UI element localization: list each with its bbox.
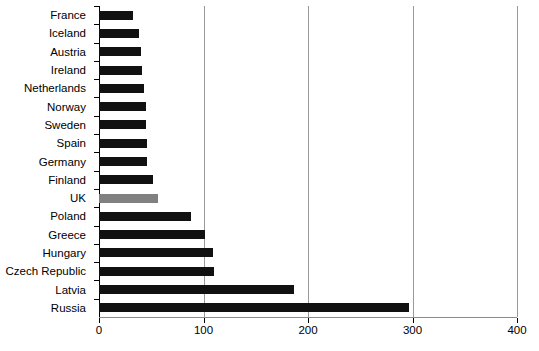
y-axis-tick xyxy=(94,97,99,98)
y-axis-label: Czech Republic xyxy=(5,262,86,280)
y-axis-labels: FranceIcelandAustriaIrelandNetherlandsNo… xyxy=(0,6,92,317)
y-axis-label: Poland xyxy=(50,207,86,225)
x-axis-tick-label: 200 xyxy=(298,324,317,336)
bar xyxy=(99,267,214,276)
y-axis-label: Russia xyxy=(51,299,86,317)
x-axis-labels: 0100200300400 xyxy=(99,318,517,338)
gridline-300 xyxy=(413,6,414,317)
y-axis-label: Iceland xyxy=(49,24,86,42)
y-axis-label: Spain xyxy=(57,134,86,152)
x-axis-tick xyxy=(517,318,518,323)
y-axis-label: UK xyxy=(70,189,86,207)
bar xyxy=(99,285,294,294)
y-axis-tick xyxy=(94,280,99,281)
bar xyxy=(99,84,144,93)
gridline-400 xyxy=(517,6,518,317)
x-axis-tick xyxy=(204,318,205,323)
bar xyxy=(99,139,147,148)
y-axis-tick xyxy=(94,6,99,7)
y-axis-tick xyxy=(94,299,99,300)
y-axis-label: Latvia xyxy=(55,281,86,299)
x-axis-tick-label: 0 xyxy=(96,324,102,336)
bar xyxy=(99,212,191,221)
bar xyxy=(99,102,146,111)
bar xyxy=(99,11,133,20)
bar xyxy=(99,230,205,239)
plot-area xyxy=(99,6,517,317)
gridline-200 xyxy=(308,6,309,317)
bar xyxy=(99,248,213,257)
bar xyxy=(99,120,146,129)
y-axis-label: Hungary xyxy=(43,244,86,262)
y-axis-tick xyxy=(94,61,99,62)
y-axis-tick xyxy=(94,189,99,190)
y-axis-label: Netherlands xyxy=(24,79,86,97)
y-axis-tick xyxy=(94,134,99,135)
bar xyxy=(99,29,139,38)
x-axis-tick xyxy=(308,318,309,323)
y-axis-tick xyxy=(94,226,99,227)
y-axis-label: France xyxy=(50,6,86,24)
x-axis-tick xyxy=(99,318,100,323)
y-axis-label: Ireland xyxy=(51,61,86,79)
y-axis-tick xyxy=(94,262,99,263)
y-axis-tick xyxy=(94,43,99,44)
y-axis-tick xyxy=(94,79,99,80)
y-axis-label: Germany xyxy=(39,153,86,171)
bar-chart: FranceIcelandAustriaIrelandNetherlandsNo… xyxy=(0,0,539,351)
y-axis-label: Finland xyxy=(48,171,86,189)
y-axis-label: Austria xyxy=(50,43,86,61)
y-axis-label: Sweden xyxy=(44,116,86,134)
bar xyxy=(99,157,147,166)
y-axis-tick xyxy=(94,207,99,208)
bar xyxy=(99,66,142,75)
x-axis-tick-label: 300 xyxy=(403,324,422,336)
bar xyxy=(99,194,158,203)
y-axis-tick xyxy=(94,171,99,172)
x-axis-tick-label: 400 xyxy=(507,324,526,336)
y-axis-tick xyxy=(94,24,99,25)
y-axis-tick xyxy=(94,152,99,153)
x-axis-tick-label: 100 xyxy=(194,324,213,336)
y-axis-label: Greece xyxy=(48,226,86,244)
bar xyxy=(99,303,409,312)
x-axis-tick xyxy=(413,318,414,323)
y-axis-tick xyxy=(94,116,99,117)
bar xyxy=(99,47,141,56)
y-axis-label: Norway xyxy=(47,98,86,116)
bar xyxy=(99,175,153,184)
y-axis-tick xyxy=(94,244,99,245)
